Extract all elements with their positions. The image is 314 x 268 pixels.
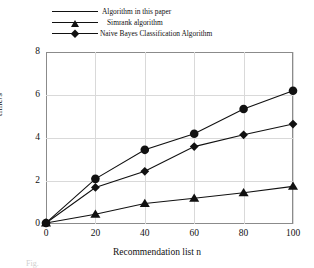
y-axis-title: time/s	[0, 93, 4, 116]
y-tick-label: 0	[20, 218, 40, 228]
x-tick-label: 100	[278, 228, 308, 238]
y-tick-label: 8	[20, 46, 40, 56]
y-tick-label: 4	[20, 132, 40, 142]
x-tick-label: 20	[80, 228, 110, 238]
figure-container: Algorithm in this paper Simrank algorith…	[0, 0, 314, 268]
y-tick-label: 2	[20, 175, 40, 185]
y-tick-label: 6	[20, 89, 40, 99]
x-tick-label: 0	[31, 228, 61, 238]
x-tick-label: 80	[229, 228, 259, 238]
x-tick-label: 60	[179, 228, 209, 238]
x-axis-title: Recommendation list n	[0, 247, 314, 257]
x-tick-label: 40	[130, 228, 160, 238]
figure-caption: Fig.	[26, 259, 39, 268]
axis-labels: 02468 020406080100 time/s Recommendation…	[0, 0, 314, 268]
